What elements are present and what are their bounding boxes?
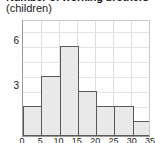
histogram-bar — [133, 121, 150, 136]
histogram-bar — [96, 106, 115, 136]
x-tick-label: 0 — [14, 137, 30, 143]
gridline-horizontal — [23, 47, 149, 48]
histogram-screenshot: Number of working brothers (children) 6 … — [0, 0, 155, 143]
x-tick-label: 25 — [105, 137, 121, 143]
gridline-horizontal — [23, 62, 149, 63]
x-tick-label: 20 — [87, 137, 103, 143]
x-tick-label: 30 — [124, 137, 140, 143]
x-tick-label: 5 — [32, 137, 48, 143]
histogram-bar — [23, 106, 42, 136]
plot-area — [22, 20, 150, 136]
x-tick-label: 15 — [69, 137, 85, 143]
histogram-bar — [114, 106, 133, 136]
histogram-bar — [41, 76, 60, 136]
y-tick-label-3: 3 — [1, 81, 19, 91]
histogram-bar — [78, 91, 97, 136]
y-axis-line — [22, 20, 23, 137]
x-tick-label: 35 — [142, 137, 155, 143]
y-axis-labels: 6 3 — [0, 0, 19, 143]
x-tick-label: 10 — [51, 137, 67, 143]
histogram-bar — [60, 46, 79, 136]
y-tick-label-6: 6 — [1, 36, 19, 46]
x-axis-labels-clipped: 05101520253035 — [0, 137, 155, 143]
gridline-horizontal — [23, 32, 149, 33]
